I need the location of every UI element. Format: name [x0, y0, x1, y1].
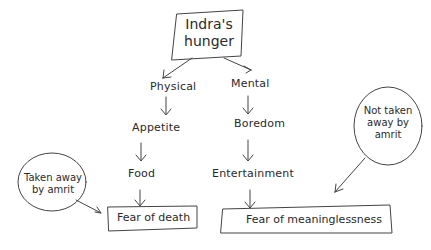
node-physical: Physical	[150, 80, 196, 93]
annotation-taken-away: Taken away by amrit	[22, 172, 84, 196]
annotation-2-line-2: away by	[356, 117, 420, 129]
annotation-2-line-3: amrit	[356, 129, 420, 141]
outcome-fear-of-meaninglessness: Fear of meaninglessness	[246, 213, 382, 226]
annotation-not-taken-away: Not taken away by amrit	[356, 105, 420, 141]
node-food: Food	[128, 167, 155, 180]
node-appetite: Appetite	[132, 121, 180, 134]
node-boredom: Boredom	[234, 117, 285, 130]
annotation-1-line-2: by amrit	[22, 184, 84, 196]
outcome-fear-of-death: Fear of death	[117, 211, 190, 224]
root-line-1: Indra's	[178, 16, 240, 33]
annotation-1-line-1: Taken away	[22, 172, 84, 184]
root-node: Indra's hunger	[178, 16, 240, 50]
node-mental: Mental	[231, 77, 270, 90]
node-entertainment: Entertainment	[212, 167, 294, 180]
root-line-2: hunger	[178, 33, 240, 50]
annotation-2-line-1: Not taken	[356, 105, 420, 117]
